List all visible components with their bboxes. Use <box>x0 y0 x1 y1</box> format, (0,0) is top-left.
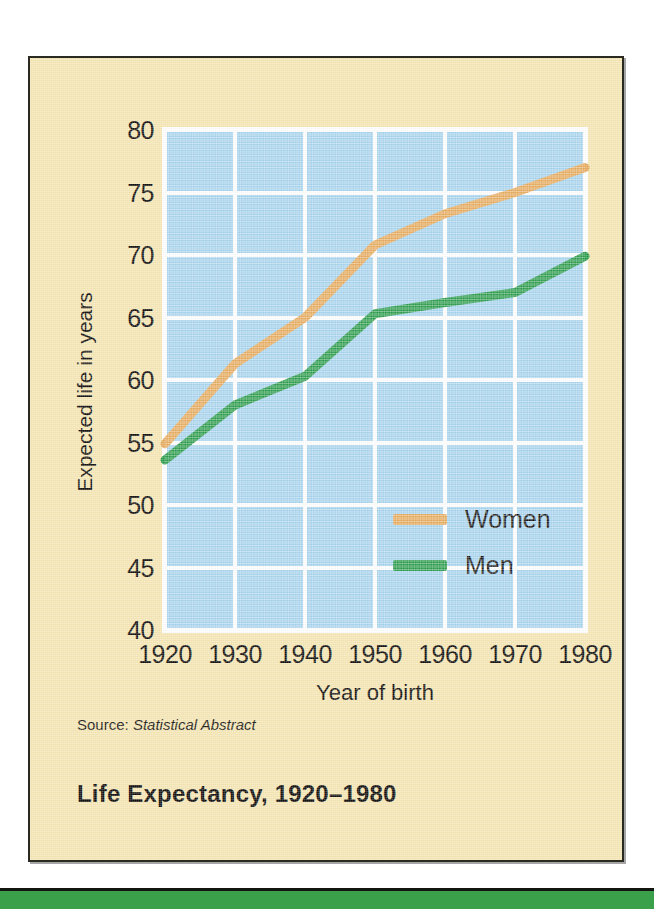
x-axis-tick-labels: 1920193019401950196019701980 <box>165 640 585 674</box>
source-prefix: Source: <box>77 716 129 733</box>
legend-label-women: Women <box>465 505 551 534</box>
y-axis-tick-label: 80 <box>127 116 154 145</box>
figure-card: Expected life in years 40455055606570758… <box>28 56 624 862</box>
legend-swatch-women <box>393 514 447 525</box>
source-work: Statistical Abstract <box>133 716 256 733</box>
legend-item-men: Men <box>393 542 583 588</box>
series-line-women <box>165 168 585 444</box>
chart-block: Expected life in years 40455055606570758… <box>30 58 626 864</box>
legend-swatch-men <box>393 560 447 571</box>
chart-legend: Women Men <box>393 496 583 588</box>
x-axis-tick-label: 1960 <box>418 640 472 669</box>
y-axis-tick-label: 50 <box>127 491 154 520</box>
figure-title: Life Expectancy, 1920–1980 <box>77 780 397 808</box>
legend-label-men: Men <box>465 551 514 580</box>
y-axis-tick-label: 75 <box>127 178 154 207</box>
y-axis-tick-label: 45 <box>127 553 154 582</box>
x-axis-tick-label: 1940 <box>278 640 332 669</box>
y-axis-tick-label: 55 <box>127 428 154 457</box>
legend-item-women: Women <box>393 496 583 542</box>
source-note: Source: Statistical Abstract <box>77 716 256 733</box>
plot-area: Women Men <box>165 130 585 630</box>
y-axis-tick-label: 70 <box>127 241 154 270</box>
x-axis-tick-label: 1970 <box>488 640 542 669</box>
x-axis-tick-label: 1950 <box>348 640 402 669</box>
y-axis-tick-label: 60 <box>127 366 154 395</box>
y-axis-tick-labels: 404550556065707580 <box>90 130 154 630</box>
y-axis-tick-label: 65 <box>127 303 154 332</box>
x-axis-title: Year of birth <box>165 680 585 706</box>
bottom-green-band <box>0 888 654 909</box>
x-axis-tick-label: 1930 <box>208 640 262 669</box>
x-axis-tick-label: 1980 <box>558 640 612 669</box>
series-line-men <box>165 256 585 460</box>
x-axis-tick-label: 1920 <box>138 640 192 669</box>
